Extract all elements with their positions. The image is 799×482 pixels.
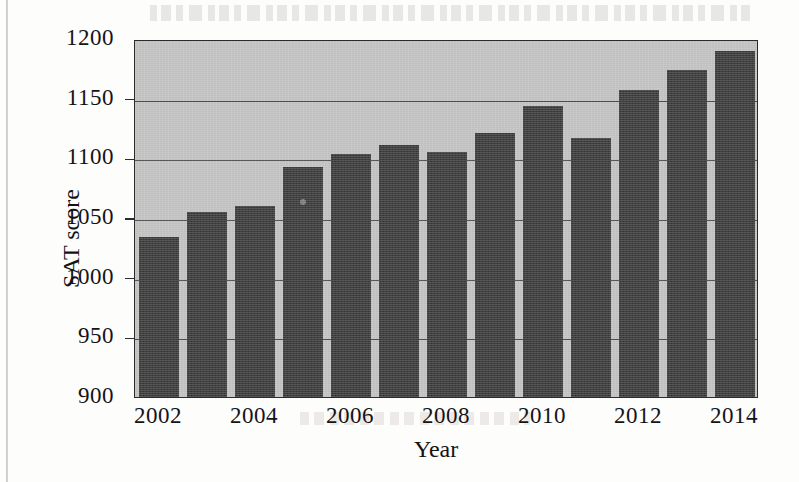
y-axis-tick-label: 1150 bbox=[10, 85, 114, 111]
x-axis-tick-label: 2012 bbox=[593, 403, 683, 429]
x-axis-tick-label: 2014 bbox=[689, 403, 779, 429]
bar bbox=[667, 70, 707, 397]
x-axis-tick-label: 2010 bbox=[497, 403, 587, 429]
y-axis-tick bbox=[125, 159, 134, 161]
y-axis-tick-label: 900 bbox=[10, 383, 114, 409]
y-axis-tick-label: 1100 bbox=[10, 144, 114, 170]
plot-area bbox=[134, 40, 758, 398]
x-axis-title: Year bbox=[414, 436, 458, 463]
scan-speck-artifact bbox=[300, 199, 306, 205]
bar bbox=[139, 237, 179, 397]
bar-series bbox=[135, 41, 757, 397]
y-axis-tick bbox=[125, 338, 134, 340]
bar bbox=[715, 51, 755, 397]
y-axis-tick-label: 950 bbox=[10, 323, 114, 349]
bar bbox=[523, 106, 563, 397]
bar bbox=[187, 212, 227, 397]
bar bbox=[235, 206, 275, 397]
bar bbox=[427, 152, 467, 397]
bar bbox=[331, 154, 371, 397]
y-axis-tick bbox=[125, 99, 134, 101]
bar bbox=[619, 90, 659, 397]
bar bbox=[571, 138, 611, 397]
y-axis-tick-label: 1200 bbox=[10, 25, 114, 51]
y-axis-tick-label: 1050 bbox=[10, 204, 114, 230]
chart-page: SAT score Year 1200115011001050100095090… bbox=[0, 0, 799, 482]
y-axis-tick bbox=[125, 218, 134, 220]
y-axis-tick-label: 1000 bbox=[10, 264, 114, 290]
x-axis-tick-label: 2004 bbox=[209, 403, 299, 429]
y-axis-tick bbox=[125, 278, 134, 280]
bar bbox=[379, 145, 419, 397]
x-axis-tick-label: 2008 bbox=[401, 403, 491, 429]
x-axis-tick-label: 2002 bbox=[113, 403, 203, 429]
x-axis-tick-label: 2006 bbox=[305, 403, 395, 429]
bar bbox=[475, 133, 515, 397]
chart-canvas: SAT score Year 1200115011001050100095090… bbox=[0, 0, 799, 482]
